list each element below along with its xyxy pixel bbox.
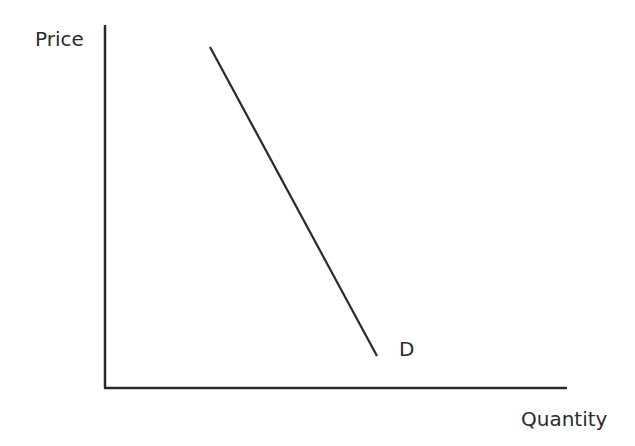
demand-curve <box>210 47 377 356</box>
demand-diagram <box>0 0 635 446</box>
demand-curve-label: D <box>399 337 414 361</box>
x-axis-label: Quantity <box>521 407 607 431</box>
y-axis-label: Price <box>35 27 84 51</box>
